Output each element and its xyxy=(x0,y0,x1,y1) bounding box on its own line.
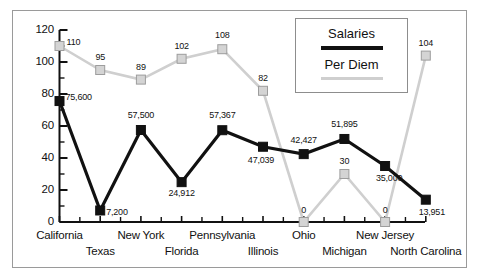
data-point-marker xyxy=(381,218,390,227)
series-salaries xyxy=(55,97,430,215)
data-point-marker xyxy=(136,126,145,135)
data-point-marker xyxy=(421,51,430,60)
data-point-marker xyxy=(96,206,105,215)
per-diem-value-label: 95 xyxy=(95,52,105,62)
salaries-value-label: 7,200 xyxy=(106,207,128,217)
legend-label-salaries: Salaries xyxy=(328,26,375,41)
y-axis-tick-label: 100 xyxy=(20,55,54,67)
salaries-value-label: 57,367 xyxy=(209,110,235,120)
salaries-value-label: 75,600 xyxy=(66,92,92,102)
data-point-marker xyxy=(55,42,64,51)
data-point-marker xyxy=(299,150,308,159)
data-point-marker xyxy=(136,75,145,84)
per-diem-value-label: 104 xyxy=(419,38,433,48)
salaries-value-label: 42,427 xyxy=(291,135,317,145)
x-axis-category-label: North Carolina xyxy=(390,245,461,257)
y-axis-tick-label: 120 xyxy=(20,23,54,35)
x-axis-category-label: Pennsylvania xyxy=(189,229,255,241)
data-point-marker xyxy=(177,178,186,187)
data-point-marker xyxy=(55,97,64,106)
per-diem-value-label: 0 xyxy=(301,205,306,215)
legend-label-per-diem: Per Diem xyxy=(324,57,378,72)
salaries-value-label: 13,951 xyxy=(419,207,445,217)
per-diem-value-label: 0 xyxy=(383,205,388,215)
chart-legend: Salaries Per Diem xyxy=(295,18,408,93)
x-axis-category-label: New York xyxy=(117,229,164,241)
y-axis-tick-label: 40 xyxy=(20,151,54,163)
per-diem-value-label: 102 xyxy=(174,41,188,51)
salaries-value-label: 51,895 xyxy=(331,119,357,129)
data-point-marker xyxy=(96,66,105,75)
data-point-marker xyxy=(218,126,227,135)
data-point-marker xyxy=(340,170,349,179)
x-axis-category-label: New Jersey xyxy=(356,229,414,241)
x-axis-category-label: Texas xyxy=(86,245,115,257)
x-axis-category-label: California xyxy=(36,229,83,241)
x-axis-category-label: Illinois xyxy=(248,245,278,257)
data-point-marker xyxy=(259,142,268,151)
x-axis-category-label: Florida xyxy=(165,245,199,257)
x-axis-category-label: Ohio xyxy=(292,229,316,241)
chart-container: 120100806040200 CaliforniaTexasNew YorkF… xyxy=(0,0,481,279)
salaries-value-label: 24,912 xyxy=(168,188,194,198)
per-diem-value-label: 82 xyxy=(258,73,268,83)
data-point-marker xyxy=(259,86,268,95)
data-point-marker xyxy=(177,54,186,63)
data-point-marker xyxy=(381,162,390,171)
y-axis-tick-label: 0 xyxy=(20,215,54,227)
data-point-marker xyxy=(421,195,430,204)
legend-swatch-salaries-icon xyxy=(321,46,383,50)
salaries-value-label: 47,039 xyxy=(248,155,274,165)
y-axis-tick-label: 20 xyxy=(20,183,54,195)
data-point-marker xyxy=(218,45,227,54)
salaries-value-label: 57,500 xyxy=(128,110,154,120)
x-axis-category-label: Michigan xyxy=(322,245,366,257)
y-axis-tick-label: 80 xyxy=(20,87,54,99)
data-point-marker xyxy=(340,134,349,143)
legend-swatch-per-diem-icon xyxy=(321,77,383,80)
per-diem-value-label: 89 xyxy=(136,62,146,72)
y-axis-tick-label: 60 xyxy=(20,119,54,131)
salaries-value-label: 35,000 xyxy=(376,173,402,183)
data-point-marker xyxy=(299,218,308,227)
per-diem-value-label: 30 xyxy=(340,156,350,166)
per-diem-value-label: 110 xyxy=(67,37,81,47)
per-diem-value-label: 108 xyxy=(215,30,229,40)
